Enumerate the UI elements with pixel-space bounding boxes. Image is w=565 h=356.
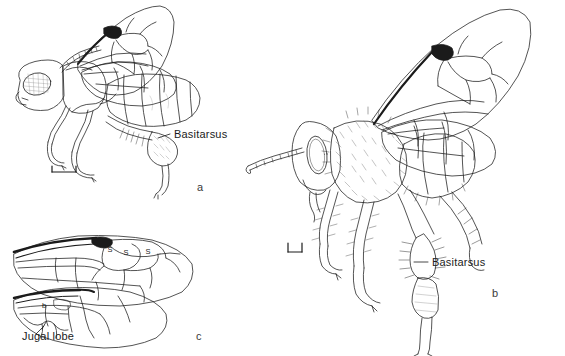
hindwing-cell-mark: b bbox=[42, 301, 46, 310]
submarginal-cell-mark-2: S bbox=[123, 248, 128, 257]
panel-letter-c: c bbox=[196, 330, 202, 342]
label-basitarsus-panel-a: Basitarsus bbox=[174, 128, 227, 140]
panel-a-illustration: S S S b bbox=[0, 0, 565, 356]
label-basitarsus-panel-b: Basitarsus bbox=[432, 256, 485, 268]
panel-letter-a: a bbox=[197, 181, 203, 193]
submarginal-cell-mark-3: S bbox=[145, 247, 150, 256]
label-jugal-lobe: Jugal lobe bbox=[22, 330, 74, 342]
panel-letter-b: b bbox=[492, 287, 498, 299]
figure-plate: S S S b Basitarsus Basitarsus Jugal lobe… bbox=[0, 0, 565, 356]
submarginal-cell-mark-1: S bbox=[107, 245, 112, 254]
